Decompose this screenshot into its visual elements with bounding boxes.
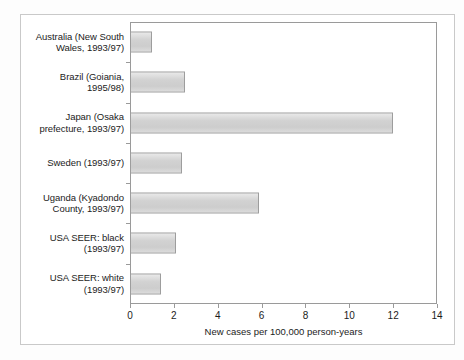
chart-figure: Australia (New South Wales, 1993/97) Bra…: [0, 0, 464, 360]
x-axis-tick-label: 8: [290, 310, 320, 321]
x-axis-tick-label: 10: [334, 310, 364, 321]
category-label-line: (1993/97): [20, 243, 124, 255]
bar-usa-seer-white[interactable]: [130, 273, 161, 294]
bar-brazil[interactable]: [130, 72, 185, 93]
category-label-line: prefecture, 1993/97): [20, 123, 124, 135]
x-axis-tick: [130, 304, 131, 308]
chart-row: USA SEER: black (1993/97): [20, 223, 437, 263]
category-label-line: Brazil (Goiania,: [20, 71, 124, 83]
bar-track: [130, 143, 437, 183]
x-axis-tick-label: 0: [115, 310, 145, 321]
x-axis-title: New cases per 100,000 person-years: [130, 326, 437, 337]
category-label-line: Australia (New South: [20, 31, 124, 43]
bar-usa-seer-black[interactable]: [130, 233, 176, 254]
x-axis-tick-label: 2: [159, 310, 189, 321]
x-axis-tick: [305, 304, 306, 308]
x-axis-tick: [437, 304, 438, 308]
x-axis-tick-label: 4: [203, 310, 233, 321]
category-label-line: County, 1993/97): [20, 203, 124, 215]
bar-track: [130, 103, 437, 143]
category-label-uganda: Uganda (Kyadondo County, 1993/97): [20, 192, 124, 215]
category-label-line: (1993/97): [20, 284, 124, 296]
bar-track: [130, 183, 437, 223]
category-label-usa-seer-black: USA SEER: black (1993/97): [20, 232, 124, 255]
bar-track: [130, 264, 437, 304]
category-label-australia: Australia (New South Wales, 1993/97): [20, 31, 124, 54]
category-label-usa-seer-white: USA SEER: white (1993/97): [20, 272, 124, 295]
bar-japan[interactable]: [130, 112, 393, 133]
x-axis-tick: [262, 304, 263, 308]
chart-row: Uganda (Kyadondo County, 1993/97): [20, 183, 437, 223]
x-axis-tick: [174, 304, 175, 308]
x-axis-tick-label: 12: [378, 310, 408, 321]
category-label-line: Sweden (1993/97): [20, 157, 124, 169]
x-axis: 02468101214: [130, 304, 437, 344]
category-label-sweden: Sweden (1993/97): [20, 157, 124, 169]
chart-row: Japan (Osaka prefecture, 1993/97): [20, 103, 437, 143]
x-axis-tick-label: 6: [247, 310, 277, 321]
x-axis-tick: [218, 304, 219, 308]
bar-track: [130, 223, 437, 263]
chart-row: USA SEER: white (1993/97): [20, 264, 437, 304]
bar-uganda[interactable]: [130, 193, 259, 214]
x-axis-tick: [349, 304, 350, 308]
category-label-line: USA SEER: white: [20, 272, 124, 284]
category-label-line: 1995/98): [20, 82, 124, 94]
category-label-line: USA SEER: black: [20, 232, 124, 244]
bar-australia[interactable]: [130, 32, 152, 53]
category-label-line: Japan (Osaka: [20, 111, 124, 123]
bar-track: [130, 22, 437, 62]
x-axis-tick-label: 14: [422, 310, 452, 321]
bar-sweden[interactable]: [130, 152, 182, 173]
bar-track: [130, 62, 437, 102]
chart-row: Sweden (1993/97): [20, 143, 437, 183]
x-axis-tick: [393, 304, 394, 308]
chart-row: Australia (New South Wales, 1993/97): [20, 22, 437, 62]
category-label-brazil: Brazil (Goiania, 1995/98): [20, 71, 124, 94]
category-label-japan: Japan (Osaka prefecture, 1993/97): [20, 111, 124, 134]
chart-row: Brazil (Goiania, 1995/98): [20, 62, 437, 102]
category-label-line: Wales, 1993/97): [20, 42, 124, 54]
category-label-line: Uganda (Kyadondo: [20, 192, 124, 204]
bar-rows: Australia (New South Wales, 1993/97) Bra…: [20, 22, 437, 304]
